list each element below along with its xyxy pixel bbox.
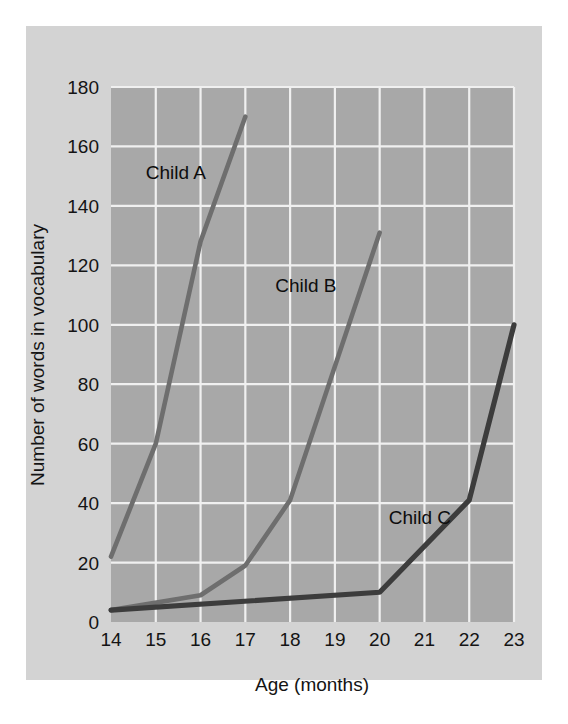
x-tick-15: 15 — [145, 629, 166, 650]
x-tick-14: 14 — [100, 629, 122, 650]
y-axis-tick-labels: 020406080100120140160180 — [67, 77, 99, 633]
x-tick-16: 16 — [190, 629, 211, 650]
y-tick-100: 100 — [67, 315, 99, 336]
x-tick-17: 17 — [235, 629, 256, 650]
x-axis-tick-labels: 14151617181920212223 — [100, 629, 524, 650]
y-tick-180: 180 — [67, 77, 99, 98]
y-tick-140: 140 — [67, 196, 99, 217]
y-tick-40: 40 — [78, 493, 99, 514]
x-tick-22: 22 — [459, 629, 480, 650]
y-tick-160: 160 — [67, 136, 99, 157]
y-tick-20: 20 — [78, 553, 99, 574]
y-tick-60: 60 — [78, 434, 99, 455]
vocabulary-growth-line-chart: 020406080100120140160180 141516171819202… — [0, 0, 568, 724]
y-axis-title: Number of words in vocabulary — [27, 224, 48, 486]
series-label-child-c: Child C — [389, 507, 451, 528]
y-tick-120: 120 — [67, 255, 99, 276]
chart-container: 020406080100120140160180 141516171819202… — [0, 0, 568, 724]
x-axis-title: Age (months) — [255, 674, 369, 695]
x-tick-23: 23 — [503, 629, 524, 650]
y-tick-80: 80 — [78, 374, 99, 395]
x-tick-20: 20 — [369, 629, 390, 650]
series-label-child-b: Child B — [275, 275, 336, 296]
x-tick-18: 18 — [280, 629, 301, 650]
series-label-child-a: Child A — [146, 162, 207, 183]
x-tick-19: 19 — [324, 629, 345, 650]
x-tick-21: 21 — [414, 629, 435, 650]
y-tick-0: 0 — [88, 612, 99, 633]
